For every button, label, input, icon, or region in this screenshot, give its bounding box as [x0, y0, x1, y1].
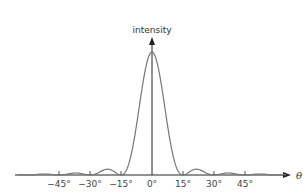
x-tick-label: 0° [147, 179, 157, 189]
x-tick-label: 30° [206, 179, 222, 189]
y-axis-arrow-icon [149, 37, 155, 45]
diffraction-chart: intensity θ −45°−30°−15°0°15°30°45° [0, 0, 308, 192]
x-tick-label: −30° [78, 179, 102, 189]
x-tick-label: 45° [237, 179, 253, 189]
x-tick-label: −45° [47, 179, 71, 189]
y-axis-label: intensity [132, 25, 172, 35]
x-tick-label: −15° [109, 179, 133, 189]
x-axis-label: θ [296, 170, 302, 181]
x-tick-label: 15° [175, 179, 191, 189]
